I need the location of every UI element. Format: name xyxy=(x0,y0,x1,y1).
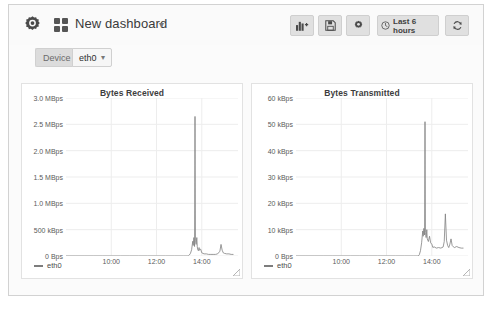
chevron-down-icon: ▾ xyxy=(101,53,105,62)
page-title: New dashboard xyxy=(75,16,167,31)
legend-label: eth0 xyxy=(47,261,62,270)
x-tick-label: 14:00 xyxy=(423,258,441,265)
clock-icon xyxy=(381,21,390,30)
panel-bytes-received[interactable]: Bytes Received 0 Bps500 kBps1.0 MBps1.5 … xyxy=(21,83,243,279)
save-dashboard-button[interactable] xyxy=(318,15,342,36)
y-tick-label: 2.5 MBps xyxy=(33,121,63,128)
chevron-down-icon[interactable]: ▾ xyxy=(159,19,164,30)
x-tick-label: 12:00 xyxy=(148,258,166,265)
x-axis-labels: 10:0012:0014:00 xyxy=(296,258,468,270)
panel-grid: Bytes Received 0 Bps500 kBps1.0 MBps1.5 … xyxy=(21,83,473,279)
time-range-label: Last 6 hours xyxy=(393,17,435,35)
legend-color-swatch xyxy=(264,265,273,267)
y-tick-label: 60 kBps xyxy=(268,95,293,102)
chart-canvas[interactable] xyxy=(66,98,238,256)
time-range-button[interactable]: Last 6 hours xyxy=(377,15,439,36)
variable-dropdown-device[interactable]: eth0 ▾ xyxy=(72,48,112,67)
dashboard-grid-icon[interactable] xyxy=(54,18,67,31)
x-tick-label: 12:00 xyxy=(378,258,396,265)
y-tick-label: 1.0 MBps xyxy=(33,200,63,207)
panel-resize-handle[interactable] xyxy=(233,269,240,276)
y-tick-label: 1.5 MBps xyxy=(33,174,63,181)
y-tick-label: 500 kBps xyxy=(34,226,63,233)
panel-resize-handle[interactable] xyxy=(463,269,470,276)
y-tick-label: 30 kBps xyxy=(268,174,293,181)
y-axis-labels: 0 Bps500 kBps1.0 MBps1.5 MBps2.0 MBps2.5… xyxy=(22,98,66,256)
grafana-gear-logo[interactable] xyxy=(23,15,42,34)
y-tick-label: 40 kBps xyxy=(268,147,293,154)
y-tick-label: 20 kBps xyxy=(268,200,293,207)
chart-legend[interactable]: eth0 xyxy=(264,261,292,270)
y-tick-label: 0 Bps xyxy=(275,253,293,260)
x-tick-label: 10:00 xyxy=(332,258,350,265)
dashboard-settings-button[interactable] xyxy=(346,15,370,36)
y-tick-label: 3.0 MBps xyxy=(33,95,63,102)
y-axis-labels: 0 Bps10 kBps20 kBps30 kBps40 kBps50 kBps… xyxy=(252,98,296,256)
chart-canvas[interactable] xyxy=(296,98,468,256)
refresh-button[interactable] xyxy=(445,15,469,36)
chart-legend[interactable]: eth0 xyxy=(34,261,62,270)
x-tick-label: 10:00 xyxy=(102,258,120,265)
top-navbar: New dashboard ▾ xyxy=(9,5,483,45)
legend-label: eth0 xyxy=(277,261,292,270)
add-panel-button[interactable] xyxy=(290,15,314,36)
legend-color-swatch xyxy=(34,265,43,267)
template-variable-row: Device eth0 ▾ xyxy=(9,45,483,75)
y-tick-label: 0 Bps xyxy=(45,253,63,260)
x-axis-labels: 10:0012:0014:00 xyxy=(66,258,238,270)
y-tick-label: 10 kBps xyxy=(268,226,293,233)
y-tick-label: 50 kBps xyxy=(268,121,293,128)
x-tick-label: 14:00 xyxy=(193,258,211,265)
dashboard-window: New dashboard ▾ xyxy=(8,4,484,296)
panel-bytes-transmitted[interactable]: Bytes Transmitted 0 Bps10 kBps20 kBps30 … xyxy=(251,83,473,279)
y-tick-label: 2.0 MBps xyxy=(33,147,63,154)
variable-value-device: eth0 xyxy=(79,53,97,63)
